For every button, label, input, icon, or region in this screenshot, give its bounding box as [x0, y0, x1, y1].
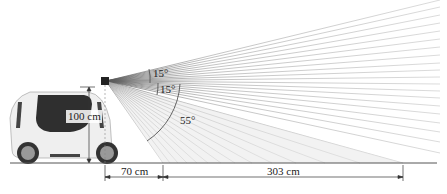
- sensor-icon: [101, 77, 109, 85]
- angle-label-upper: 15°: [153, 67, 168, 79]
- height-label: 100 cm: [68, 110, 101, 122]
- range-distance-label: 303 cm: [267, 165, 300, 177]
- blind-distance-label: 70 cm: [121, 165, 149, 177]
- sensor-fov-diagram: 15° 15° 55° 100 cm 70 cm 303 c: [0, 0, 447, 194]
- distance-dimensions: [105, 165, 403, 181]
- angle-label-lower: 55°: [180, 114, 195, 126]
- angle-label-middle: 15°: [160, 83, 175, 95]
- vehicle: [10, 92, 118, 164]
